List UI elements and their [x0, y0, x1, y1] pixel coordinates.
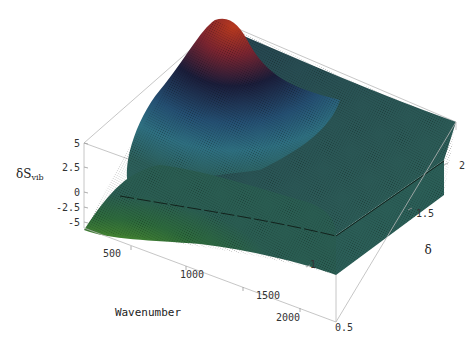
z-axis: 5 2.5 0 -2.5 -5 δSvib: [16, 138, 88, 228]
x-axis-label: Wavenumber: [115, 306, 182, 319]
z-tick: -2.5: [56, 202, 80, 213]
x-tick: 500: [103, 248, 121, 259]
surface-plot: 5 2.5 0 -2.5 -5 δSvib 500 1000 1500 2000…: [0, 0, 471, 344]
z-tick: 5: [74, 138, 80, 149]
surface-mesh: [84, 19, 456, 275]
x-tick: 1500: [256, 290, 280, 301]
y-tick: 1: [310, 259, 316, 270]
y-tick: 2: [459, 160, 465, 171]
y-axis-label: δ: [424, 243, 431, 257]
y-tick: 1.5: [416, 208, 434, 219]
z-tick: 0: [74, 187, 80, 198]
x-tick: 2000: [276, 312, 300, 323]
z-axis-label: δSvib: [16, 167, 44, 182]
y-tick: 0.5: [335, 322, 353, 333]
x-tick: 1000: [180, 269, 204, 280]
z-tick: -5: [68, 217, 80, 228]
z-tick: 2.5: [62, 162, 80, 173]
